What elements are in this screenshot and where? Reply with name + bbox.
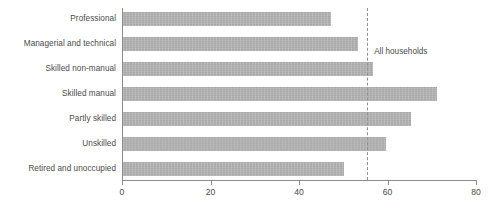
category-label-row: Retired and unoccupied: [0, 162, 116, 176]
bar-managerial-and-technical: [123, 37, 358, 51]
x-axis-tick-label: 80: [461, 187, 490, 198]
category-label-row: Managerial and technical: [0, 37, 116, 51]
category-label-row: Skilled non-manual: [0, 62, 116, 76]
bar-professional: [123, 12, 331, 26]
bar-retired-and-unoccupied: [123, 162, 344, 176]
x-axis-tick: [388, 180, 389, 185]
x-axis-tick: [299, 180, 300, 185]
bar-unskilled: [123, 137, 386, 151]
x-axis-tick: [211, 180, 212, 185]
category-label-row: Unskilled: [0, 137, 116, 151]
x-axis-tick-label: 40: [284, 187, 314, 198]
all-households-reference-line: [367, 8, 368, 180]
x-axis-tick-label: 20: [196, 187, 226, 198]
category-label-skilled-manual: Skilled manual: [4, 87, 116, 101]
y-axis-line: [122, 8, 123, 180]
x-axis-tick-label: 0: [107, 187, 137, 198]
category-label-row: Professional: [0, 12, 116, 26]
all-households-reference-label: All households: [374, 47, 427, 57]
bar-skilled-non-manual: [123, 62, 373, 76]
category-label-unskilled: Unskilled: [4, 137, 116, 151]
x-axis-tick: [122, 180, 123, 185]
category-label-professional: Professional: [4, 12, 116, 26]
category-label-skilled-non-manual: Skilled non-manual: [4, 62, 116, 76]
category-label-retired-and-unoccupied: Retired and unoccupied: [4, 162, 116, 176]
category-label-row: Partly skilled: [0, 112, 116, 126]
bar-skilled-manual: [123, 87, 437, 101]
x-axis-tick: [476, 180, 477, 185]
category-label-managerial-and-technical: Managerial and technical: [4, 37, 116, 51]
x-axis-tick-label: 60: [373, 187, 403, 198]
bar-chart: Professional Managerial and technical Sk…: [0, 0, 490, 212]
category-label-row: Skilled manual: [0, 87, 116, 101]
category-label-partly-skilled: Partly skilled: [4, 112, 116, 126]
plot-area: Professional Managerial and technical Sk…: [0, 0, 490, 212]
